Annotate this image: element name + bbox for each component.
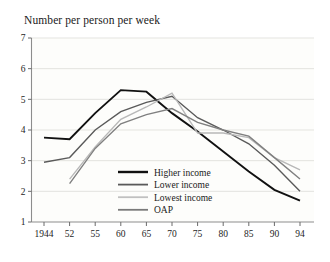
line-chart-plot: 7654321194452556065707580859094Higher in… [0, 0, 330, 262]
y-axis-tick-label: 6 [21, 64, 26, 74]
x-axis-tick-label: 1944 [35, 229, 54, 239]
y-axis-tick-label: 5 [21, 95, 26, 105]
legend-label: Lowest income [154, 193, 212, 203]
y-axis-tick-label: 7 [21, 33, 26, 43]
x-axis-tick-label: 70 [167, 229, 177, 239]
x-axis-tick-label: 55 [90, 229, 100, 239]
x-axis-tick-label: 85 [244, 229, 254, 239]
y-axis: 7654321 [21, 33, 32, 227]
y-axis-tick-label: 2 [21, 187, 26, 197]
y-axis-tick-label: 4 [21, 125, 26, 135]
x-axis-tick-label: 80 [218, 229, 228, 239]
x-axis-tick-label: 65 [142, 229, 152, 239]
legend-label: Higher income [154, 168, 211, 178]
x-axis: 194452556065707580859094 [32, 222, 315, 239]
y-axis-tick-label: 3 [21, 156, 26, 166]
chart-figure: Number per person per week 7654321194452… [0, 0, 330, 262]
x-axis-tick-label: 94 [295, 229, 305, 239]
legend-label: OAP [154, 205, 173, 215]
x-axis-tick-label: 90 [270, 229, 280, 239]
y-axis-tick-label: 1 [21, 217, 26, 227]
x-axis-tick-label: 60 [116, 229, 126, 239]
x-axis-tick-label: 75 [193, 229, 203, 239]
legend-label: Lower income [154, 180, 209, 190]
x-axis-tick-label: 52 [65, 229, 75, 239]
